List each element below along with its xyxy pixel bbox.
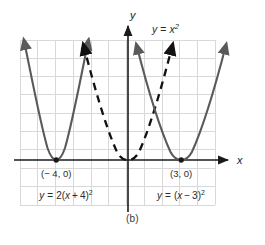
x-axis-label: x: [236, 154, 243, 166]
vertex-label-right: (3, 0): [170, 168, 192, 179]
parabola-figure: y x y=x2 (− 4, 0) (3, 0) y=2(x+4)2 y=(x−…: [0, 0, 265, 245]
grid: [20, 40, 215, 205]
vertex-label-left: (− 4, 0): [41, 168, 71, 179]
curve-label-y-equals-x-squared: y=x2: [151, 22, 180, 35]
y-axis-label: y: [129, 9, 137, 21]
graph-canvas: y x y=x2 (− 4, 0) (3, 0) y=2(x+4)2 y=(x−…: [0, 0, 265, 245]
curve-left-solid: [24, 41, 88, 163]
vertex-point-left: [54, 157, 59, 162]
curve-right-solid: [137, 45, 227, 163]
vertex-point-right: [179, 157, 184, 162]
equation-left: y=2(x+4)2: [38, 189, 93, 201]
equation-right: y=(x−3)2: [156, 189, 205, 201]
axes: [14, 26, 228, 212]
figure-caption: (b): [0, 213, 265, 224]
